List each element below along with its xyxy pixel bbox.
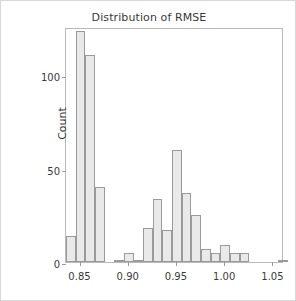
y-tick-mark <box>62 77 66 78</box>
histogram-bar <box>66 236 76 262</box>
histogram-bar <box>220 245 230 262</box>
histogram-bar <box>162 230 172 262</box>
x-tick-mark <box>128 262 129 266</box>
histogram-bar <box>114 260 124 262</box>
histogram-bar <box>134 260 144 262</box>
histogram-figure: Distribution of RMSE 050100 0.850.900.95… <box>0 0 296 301</box>
histogram-bar <box>191 215 201 262</box>
histogram-bar <box>95 187 105 262</box>
histogram-bar <box>240 253 250 262</box>
y-tick-mark <box>62 171 66 172</box>
histogram-bar <box>201 249 211 262</box>
x-tick-mark <box>224 262 225 266</box>
x-tick-label: 0.90 <box>117 271 139 282</box>
histogram-bar <box>230 253 240 262</box>
histogram-bar <box>124 253 134 262</box>
x-tick-mark <box>80 262 81 266</box>
histogram-bar <box>211 253 221 262</box>
histogram-bar <box>172 150 182 262</box>
y-tick-mark <box>62 264 66 265</box>
histogram-bar <box>182 193 192 262</box>
chart-title: Distribution of RMSE <box>1 11 296 24</box>
x-tick-label: 0.95 <box>165 271 187 282</box>
plot-area: 050100 0.850.900.951.001.05 Count <box>65 28 283 263</box>
histogram-bar <box>153 199 163 262</box>
histogram-bar <box>143 228 153 262</box>
y-tick-label: 50 <box>47 165 60 176</box>
x-tick-label: 1.00 <box>213 271 235 282</box>
bars-container <box>66 29 282 262</box>
x-tick-label: 1.05 <box>261 271 283 282</box>
y-tick-label: 100 <box>41 72 60 83</box>
y-tick-label: 0 <box>54 259 60 270</box>
x-tick-mark <box>176 262 177 266</box>
x-tick-mark <box>272 262 273 266</box>
histogram-bar <box>85 55 95 262</box>
y-axis-label: Count <box>56 84 69 164</box>
histogram-bar <box>278 260 288 262</box>
histogram-bar <box>76 31 86 262</box>
x-tick-label: 0.85 <box>68 271 90 282</box>
